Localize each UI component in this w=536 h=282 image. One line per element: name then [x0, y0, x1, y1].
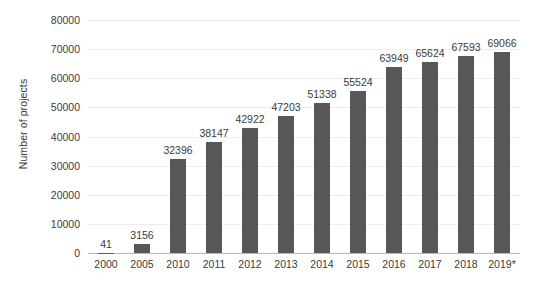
y-axis-tick-label: 20000 — [26, 189, 80, 201]
bar — [458, 56, 474, 253]
x-axis-tick-label: 2013 — [274, 258, 297, 270]
x-axis-tick-label: 2015 — [346, 258, 369, 270]
x-axis-tick-label: 2019* — [488, 258, 515, 270]
y-axis-tick-label: 10000 — [26, 218, 80, 230]
bar-value-label: 38147 — [199, 128, 228, 139]
bar-value-label: 32396 — [163, 145, 192, 156]
bar — [134, 244, 150, 253]
bar-value-label: 47203 — [271, 102, 300, 113]
bar-group: 69066 — [484, 20, 520, 253]
bar — [386, 67, 402, 253]
x-axis-tick-label: 2010 — [166, 258, 189, 270]
y-axis-tick-label: 80000 — [26, 14, 80, 26]
bar — [206, 142, 222, 253]
x-axis-tick-label: 2005 — [130, 258, 153, 270]
x-axis-tick-label: 2016 — [382, 258, 405, 270]
y-axis-tick-label: 60000 — [26, 72, 80, 84]
x-axis-tick-label: 2018 — [454, 258, 477, 270]
bar-group: 51338 — [304, 20, 340, 253]
bar-group: 67593 — [448, 20, 484, 253]
y-axis-tick-label: 40000 — [26, 131, 80, 143]
bar — [494, 52, 510, 253]
x-axis-tick-labels: 2000200520102011201220132014201520162017… — [88, 258, 520, 274]
bar — [278, 116, 294, 253]
x-axis-tick-label: 2017 — [418, 258, 441, 270]
bar-group: 41 — [88, 20, 124, 253]
x-axis-tick-label: 2014 — [310, 258, 333, 270]
bar-value-label: 63949 — [379, 53, 408, 64]
axis-baseline — [88, 253, 520, 254]
bar-value-label: 3156 — [130, 230, 153, 241]
bar-group: 63949 — [376, 20, 412, 253]
bar-chart: Number of projects 010000200003000040000… — [0, 0, 536, 282]
bar-value-label: 42922 — [235, 114, 264, 125]
y-axis-tick-label: 50000 — [26, 101, 80, 113]
bar — [170, 159, 186, 253]
bar-value-label: 41 — [100, 239, 112, 250]
bar-group: 42922 — [232, 20, 268, 253]
bar — [242, 128, 258, 253]
y-axis-tick-label: 0 — [26, 247, 80, 259]
x-axis-tick-label: 2000 — [94, 258, 117, 270]
bar-value-label: 65624 — [415, 48, 444, 59]
bar-value-label: 55524 — [343, 77, 372, 88]
bar-value-label: 69066 — [487, 38, 516, 49]
x-axis-tick-label: 2011 — [203, 258, 226, 270]
bar — [422, 62, 438, 253]
bar-group: 55524 — [340, 20, 376, 253]
plot-area: 4131563239638147429224720351338555246394… — [88, 20, 520, 253]
bar-group: 3156 — [124, 20, 160, 253]
bar-group: 47203 — [268, 20, 304, 253]
y-axis-tick-label: 30000 — [26, 160, 80, 172]
bar — [350, 91, 366, 253]
bar-group: 38147 — [196, 20, 232, 253]
bar-value-label: 51338 — [307, 89, 336, 100]
bar-group: 65624 — [412, 20, 448, 253]
y-axis-tick-label: 70000 — [26, 43, 80, 55]
x-axis-tick-label: 2012 — [238, 258, 261, 270]
bar-group: 32396 — [160, 20, 196, 253]
bar — [314, 103, 330, 253]
bar-value-label: 67593 — [451, 42, 480, 53]
